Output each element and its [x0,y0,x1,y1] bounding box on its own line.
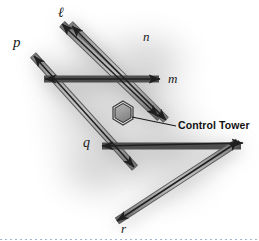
hexagon-inner-icon [115,104,131,123]
control-tower-marker[interactable] [113,101,133,125]
label-line-p: p [13,35,21,50]
label-line-q: q [83,136,90,150]
runway-diagram-figure: ℓ n m p q r Control Tower [0,0,259,241]
label-line-l: ℓ [58,6,64,20]
control-tower-label: Control Tower [178,119,250,131]
label-line-m: m [168,72,177,85]
bottom-dotted-rule [0,239,259,240]
label-line-n: n [143,30,150,43]
label-line-r: r [121,222,126,235]
